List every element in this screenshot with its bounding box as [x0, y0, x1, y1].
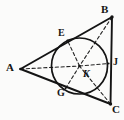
side-BC: [111, 17, 113, 104]
bisector-AK: [21, 66, 80, 69]
point-label-K: K: [83, 69, 90, 79]
point-label-C: C: [112, 104, 120, 115]
point-label-G: G: [57, 88, 65, 98]
point-dot-K: [78, 65, 80, 67]
radius-KG: [66, 66, 80, 89]
point-label-A: A: [6, 62, 14, 73]
geometry-figure: A B C E G J K: [0, 0, 124, 120]
point-dot-E: [66, 39, 68, 41]
point-dot-A: [19, 68, 22, 71]
point-label-E: E: [58, 28, 65, 38]
side-AB: [21, 17, 113, 69]
point-dot-J: [107, 62, 109, 64]
radius-KJ: [80, 64, 109, 67]
side-CA: [21, 69, 111, 104]
geometry-canvas: [0, 0, 124, 120]
point-label-B: B: [101, 4, 108, 15]
vertex-dots-group: [19, 15, 114, 105]
point-dot-B: [110, 15, 113, 18]
radius-KE: [68, 41, 80, 67]
point-label-J: J: [113, 57, 118, 67]
